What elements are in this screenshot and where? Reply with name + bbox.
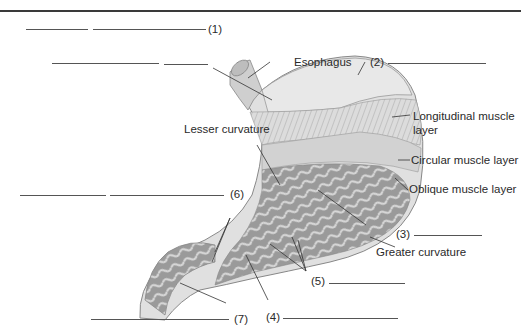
blank-7[interactable] bbox=[91, 319, 229, 320]
blank-1b[interactable] bbox=[93, 29, 206, 30]
blank-3[interactable] bbox=[414, 235, 482, 236]
blank-4[interactable] bbox=[283, 318, 398, 319]
label-circular: Circular muscle layer bbox=[411, 154, 518, 167]
label-2: (2) bbox=[370, 56, 384, 69]
label-oblique: Oblique muscle layer bbox=[409, 183, 516, 196]
blank-1a[interactable] bbox=[26, 29, 88, 30]
stomach-illustration bbox=[0, 0, 521, 334]
blank-5[interactable] bbox=[329, 283, 405, 284]
label-longitudinal-2: layer bbox=[413, 124, 438, 137]
label-6: (6) bbox=[230, 188, 244, 201]
label-esophagus: Esophagus bbox=[294, 56, 352, 69]
blank-2[interactable] bbox=[388, 63, 486, 64]
label-5: (5) bbox=[311, 275, 325, 288]
label-greater-curvature: Greater curvature bbox=[376, 246, 466, 259]
label-lesser-curvature: Lesser curvature bbox=[184, 123, 270, 136]
label-3: (3) bbox=[396, 228, 410, 241]
blank-esophagus-a[interactable] bbox=[52, 63, 159, 64]
blank-esophagus-b[interactable] bbox=[164, 64, 208, 65]
label-1: (1) bbox=[208, 23, 222, 36]
label-longitudinal-1: Longitudinal muscle bbox=[413, 110, 515, 123]
label-4: (4) bbox=[266, 311, 280, 324]
blank-6b[interactable] bbox=[110, 195, 224, 196]
blank-6a[interactable] bbox=[20, 195, 106, 196]
label-7: (7) bbox=[234, 313, 248, 326]
